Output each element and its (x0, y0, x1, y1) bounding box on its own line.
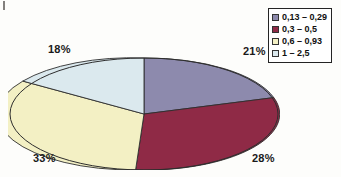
pie-label-21pct: 21% (243, 45, 266, 57)
legend-item-3[interactable]: 1 – 2,5 (272, 48, 327, 59)
scan-artifact-mark (3, 1, 5, 10)
legend-swatch-3-icon (272, 50, 279, 57)
legend-label-0: 0,13 – 0,29 (282, 13, 327, 22)
legend-item-2[interactable]: 0,6 – 0,93 (272, 36, 327, 47)
pie-chart-figure: 18% 21% 33% 28% 0,13 – 0,29 0,3 – 0,5 0,… (0, 0, 341, 177)
legend-item-0[interactable]: 0,13 – 0,29 (272, 12, 327, 23)
legend-label-3: 1 – 2,5 (282, 49, 310, 58)
pie-label-28pct: 28% (252, 152, 275, 164)
legend-label-2: 0,6 – 0,93 (282, 37, 322, 46)
legend-swatch-2-icon (272, 38, 279, 45)
pie-label-33pct: 33% (33, 152, 56, 164)
legend-item-1[interactable]: 0,3 – 0,5 (272, 24, 327, 35)
legend-label-1: 0,3 – 0,5 (282, 25, 317, 34)
pie-label-18pct: 18% (48, 43, 71, 55)
legend-swatch-0-icon (272, 14, 279, 21)
legend-swatch-1-icon (272, 26, 279, 33)
chart-legend: 0,13 – 0,29 0,3 – 0,5 0,6 – 0,93 1 – 2,5 (268, 8, 332, 63)
